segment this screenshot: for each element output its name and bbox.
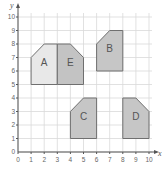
x-axis-label: x (157, 149, 162, 158)
shape-label-e: E (67, 57, 74, 68)
y-tick-label: 8 (11, 40, 15, 47)
grid-plot: AEBCD 012345678910012345678910 x y (0, 0, 164, 170)
y-tick-label: 4 (11, 94, 15, 101)
x-tick-label: 5 (82, 156, 86, 163)
y-tick-label: 7 (11, 54, 15, 61)
y-tick-label: 10 (8, 13, 16, 20)
x-tick-label: 0 (16, 156, 20, 163)
x-tick-label: 3 (55, 156, 59, 163)
y-tick-label: 3 (11, 108, 15, 115)
x-tick-label: 10 (145, 156, 153, 163)
shape-label-a: A (41, 57, 48, 68)
x-tick-label: 7 (108, 156, 112, 163)
x-tick-label: 8 (121, 156, 125, 163)
y-axis-label: y (9, 1, 14, 10)
x-tick-label: 1 (29, 156, 33, 163)
y-tick-label: 2 (11, 121, 15, 128)
x-tick-label: 6 (95, 156, 99, 163)
shape-label-c: C (80, 111, 87, 122)
y-tick-label: 1 (11, 135, 15, 142)
y-tick-label: 5 (11, 81, 15, 88)
y-axis-arrow-icon (16, 3, 20, 8)
y-tick-label: 6 (11, 67, 15, 74)
shape-label-b: B (106, 43, 113, 54)
tick-labels: 012345678910012345678910 (8, 13, 153, 163)
y-tick-label: 9 (11, 27, 15, 34)
x-tick-label: 9 (134, 156, 138, 163)
x-tick-label: 4 (69, 156, 73, 163)
coordinate-grid-diagram: AEBCD 012345678910012345678910 x y (0, 0, 164, 170)
y-tick-label: 0 (11, 148, 15, 155)
x-tick-label: 2 (42, 156, 46, 163)
shape-label-d: D (132, 111, 139, 122)
